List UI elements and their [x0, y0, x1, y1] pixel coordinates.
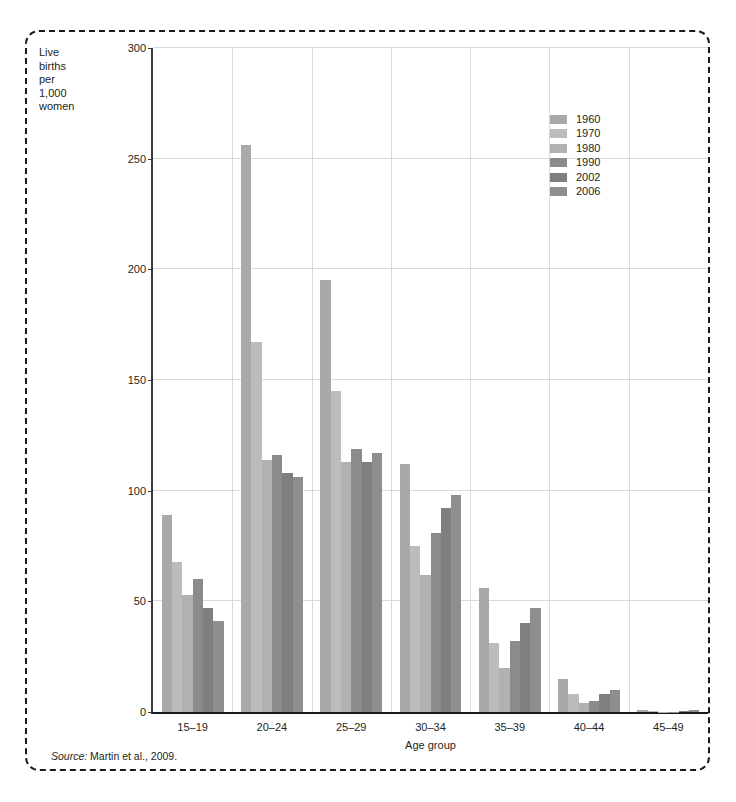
x-axis-tick-label: 20–24	[241, 721, 303, 733]
x-axis-tick-label: 30–34	[400, 721, 462, 733]
legend-swatch	[550, 129, 567, 138]
legend-item: 2002	[550, 170, 600, 185]
bar	[182, 595, 192, 712]
bar	[400, 464, 410, 712]
y-axis-tick-label: 100	[128, 485, 146, 497]
bar	[479, 588, 489, 712]
y-axis-title-line: births	[39, 60, 97, 74]
y-axis-tick-mark	[148, 712, 153, 713]
bar	[341, 462, 351, 712]
legend-item: 1970	[550, 127, 600, 142]
bar	[510, 641, 520, 712]
legend-item: 1960	[550, 112, 600, 127]
bar	[599, 694, 609, 712]
y-axis-tick-label: 250	[128, 153, 146, 165]
bar	[589, 701, 599, 712]
bar	[441, 508, 451, 712]
legend-label: 1970	[576, 128, 600, 139]
bar	[293, 477, 303, 712]
y-axis-tick-label: 150	[128, 374, 146, 386]
x-axis-title: Age group	[153, 739, 708, 751]
legend-label: 1990	[576, 157, 600, 168]
bar	[203, 608, 213, 712]
y-axis-title: Livebirthsper1,000women	[39, 46, 97, 114]
legend-item: 2006	[550, 185, 600, 200]
bar	[241, 145, 251, 712]
source-citation: Martin et al., 2009.	[87, 750, 177, 762]
bar	[372, 453, 382, 712]
x-axis-tick-label: 45–49	[637, 721, 699, 733]
bar-group: 35–39	[479, 48, 541, 712]
legend-label: 1980	[576, 143, 600, 154]
y-axis-tick-label: 300	[128, 42, 146, 54]
legend-label: 2006	[576, 186, 600, 197]
bar	[530, 608, 540, 712]
legend-label: 1960	[576, 114, 600, 125]
bar	[520, 623, 530, 712]
bar	[579, 703, 589, 712]
bar	[648, 711, 658, 712]
legend-swatch	[550, 173, 567, 182]
bar	[351, 449, 361, 712]
bar	[499, 668, 509, 712]
bar	[262, 460, 272, 712]
bar-group: 25–29	[320, 48, 382, 712]
bar	[679, 711, 689, 712]
x-axis-tick-label: 35–39	[479, 721, 541, 733]
legend-item: 1990	[550, 156, 600, 171]
legend-item: 1980	[550, 141, 600, 156]
bar-group: 15–19	[162, 48, 224, 712]
x-axis-tick-label: 40–44	[558, 721, 620, 733]
x-axis-tick-label: 15–19	[162, 721, 224, 733]
legend: 196019701980199020022006	[550, 112, 600, 199]
bars-layer: 15–1920–2425–2930–3435–3940–4445–49	[153, 48, 708, 712]
plot-area: 050100150200250300 15–1920–2425–2930–343…	[151, 48, 708, 714]
bar-group: 20–24	[241, 48, 303, 712]
bar	[410, 546, 420, 712]
bar-group: 30–34	[400, 48, 462, 712]
bar	[213, 621, 223, 712]
bar-group: 45–49	[637, 48, 699, 712]
bar	[251, 342, 261, 712]
y-axis-tick-label: 200	[128, 263, 146, 275]
legend-label: 2002	[576, 172, 600, 183]
bar	[162, 515, 172, 712]
y-axis-tick-label: 50	[134, 595, 146, 607]
bar	[282, 473, 292, 712]
x-axis-tick-label: 25–29	[320, 721, 382, 733]
legend-swatch	[550, 115, 567, 124]
legend-swatch	[550, 158, 567, 167]
source-label: Source:	[51, 750, 87, 762]
bar	[489, 643, 499, 712]
legend-swatch	[550, 144, 567, 153]
bar	[362, 462, 372, 712]
bar	[331, 391, 341, 712]
bar	[558, 679, 568, 712]
bar	[637, 710, 647, 712]
bar	[431, 533, 441, 712]
figure-frame: Livebirthsper1,000women 0501001502002503…	[25, 30, 710, 771]
y-axis-title-line: women	[39, 100, 97, 114]
bar	[193, 579, 203, 712]
y-axis-title-line: 1,000	[39, 87, 97, 101]
bar	[610, 690, 620, 712]
bar	[420, 575, 430, 712]
y-axis-title-line: per	[39, 73, 97, 87]
bar	[320, 280, 330, 712]
y-axis-title-line: Live	[39, 46, 97, 60]
source-note: Source: Martin et al., 2009.	[51, 750, 177, 762]
bar	[272, 455, 282, 712]
bar	[568, 694, 578, 712]
bar	[172, 562, 182, 713]
y-axis-tick-label: 0	[140, 706, 146, 718]
bar	[689, 710, 699, 712]
legend-swatch	[550, 187, 567, 196]
bar	[451, 495, 461, 712]
